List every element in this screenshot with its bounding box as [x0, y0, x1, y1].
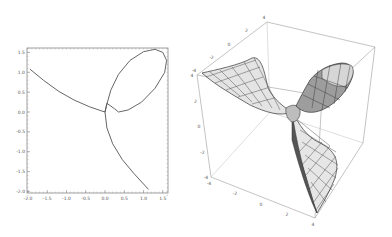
x-tick-label: -2.0 — [24, 196, 33, 201]
axis-tick-label: 4 — [312, 222, 315, 227]
axis-tick-label: 0 — [198, 124, 201, 129]
axis-tick-label: 2 — [286, 212, 289, 217]
axis-tick-label: -2 — [209, 55, 214, 60]
surface-3d-plot: 420-2-4 420-2-4 -4-2024 — [185, 0, 392, 237]
axis-tick-label: 4 — [263, 15, 266, 20]
bounding-box-back-edges — [211, 22, 363, 177]
parametric-curve — [30, 49, 167, 189]
bounding-box-edges — [197, 22, 375, 218]
x-tick-label: 1.0 — [140, 196, 147, 201]
axis-tick-label: -2 — [233, 191, 238, 196]
box-bottom-axis-ticks: -4-2024 — [207, 181, 315, 227]
x-axis-ticks: -2.0-1.5-1.0-0.50.00.51.01.5 — [24, 48, 167, 201]
plot-frame — [27, 48, 168, 193]
box-left-axis-ticks: 420-2-4 — [191, 73, 209, 180]
surface-lobe-upper-right — [296, 63, 353, 112]
y-tick-label: 0.0 — [18, 110, 25, 115]
x-tick-label: -0.5 — [81, 196, 90, 201]
y-axis-ticks: 1.51.00.50.0-0.5-1.0-1.5-2.0 — [16, 48, 168, 195]
y-tick-label: -2.0 — [16, 189, 25, 194]
surface-plot-svg: 420-2-4 420-2-4 -4-2024 — [185, 0, 392, 237]
axis-tick-label: 0 — [260, 202, 263, 207]
y-tick-label: -1.5 — [16, 169, 25, 174]
curve-plot-svg: -2.0-1.5-1.0-0.50.00.51.01.5 1.51.00.50.… — [0, 0, 185, 237]
x-tick-label: -1.5 — [43, 196, 52, 201]
axis-tick-label: -4 — [207, 181, 212, 186]
surface-wing-left — [202, 58, 292, 114]
axis-tick-label: 2 — [194, 99, 197, 104]
axis-tick-label: -2 — [200, 150, 205, 155]
x-tick-label: 0.5 — [121, 196, 128, 201]
x-tick-label: -1.0 — [62, 196, 71, 201]
y-tick-label: -0.5 — [16, 129, 25, 134]
y-tick-label: 1.0 — [18, 70, 25, 75]
parametric-curve-plot: -2.0-1.5-1.0-0.50.00.51.01.5 1.51.00.50.… — [0, 0, 185, 237]
axis-tick-label: -4 — [204, 175, 209, 180]
x-tick-label: 1.5 — [159, 196, 166, 201]
y-tick-label: 0.5 — [18, 90, 25, 95]
axis-tick-label: 2 — [245, 28, 248, 33]
axis-tick-label: 4 — [191, 73, 194, 78]
y-tick-label: 1.5 — [18, 50, 25, 55]
y-tick-label: -1.0 — [16, 149, 25, 154]
x-tick-label: 0.0 — [101, 196, 108, 201]
axis-tick-label: 0 — [228, 42, 231, 47]
